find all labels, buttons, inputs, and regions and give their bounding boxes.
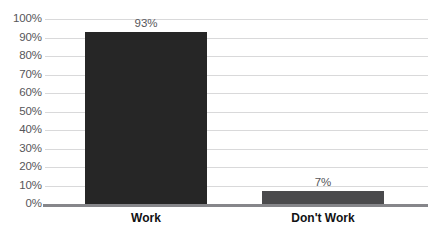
x-axis-line (43, 204, 428, 207)
bar-chart: 100% 90% 80% 70% 60% 50% 40% 30% 20% 10%… (0, 0, 433, 227)
gridline-100 (45, 19, 428, 20)
x-axis-category-dont-work: Don't Work (291, 212, 354, 224)
y-axis-tick-50: 50% (0, 106, 42, 118)
y-axis-tick-70: 70% (0, 69, 42, 81)
y-axis-tick-80: 80% (0, 50, 42, 62)
bar-work (85, 32, 207, 204)
bar-dont-work (262, 191, 384, 204)
y-axis-tick-90: 90% (0, 32, 42, 44)
y-axis-tick-40: 40% (0, 124, 42, 136)
bar-value-label-dont-work: 7% (315, 177, 332, 189)
y-axis-tick-60: 60% (0, 87, 42, 99)
y-axis-tick-10: 10% (0, 180, 42, 192)
y-axis-tick-100: 100% (0, 13, 42, 25)
y-axis-tick-20: 20% (0, 161, 42, 173)
y-axis-tick-0: 0% (0, 198, 42, 210)
bar-value-label-work: 93% (134, 18, 157, 30)
plot-area (45, 0, 428, 227)
y-axis: 100% 90% 80% 70% 60% 50% 40% 30% 20% 10%… (0, 0, 42, 227)
y-axis-tick-30: 30% (0, 143, 42, 155)
x-axis-category-work: Work (131, 212, 161, 224)
